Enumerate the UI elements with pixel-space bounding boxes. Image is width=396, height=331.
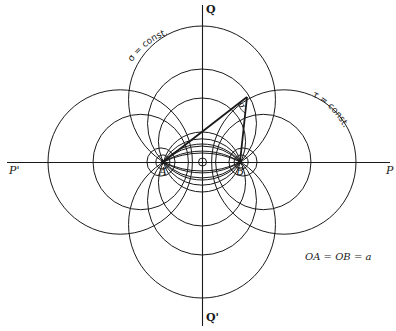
axis-label-p-prime: P' xyxy=(9,164,19,177)
sigma-const-label: σ = const. xyxy=(126,27,169,63)
point-label-a: A xyxy=(159,165,167,178)
tau-const-label: τ = const. xyxy=(311,89,351,129)
equation-label: OA = OB = a xyxy=(305,251,371,262)
axes xyxy=(7,5,390,326)
axis-label-q-prime: Q' xyxy=(206,311,219,324)
axis-label-p: P xyxy=(386,164,393,177)
point-label-b: B xyxy=(236,165,244,178)
point-b xyxy=(238,160,242,164)
point-a xyxy=(161,160,165,164)
axis-label-q: Q xyxy=(206,3,216,16)
bipolar-diagram: σ = const. τ = const. xyxy=(0,0,396,331)
